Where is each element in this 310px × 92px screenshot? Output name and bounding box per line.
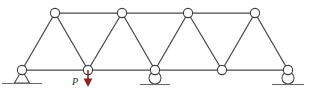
joint-B4 (217, 65, 226, 74)
joint-B5 (283, 65, 292, 74)
joint-B1 (17, 65, 26, 74)
joint-B3 (150, 65, 159, 74)
truss-diagram: P (0, 0, 310, 92)
diagonal-member-B4-T4 (222, 13, 255, 70)
diagonal-member-T3-B4 (188, 13, 222, 70)
joint-T1 (50, 8, 59, 17)
diagonal-member-T4-B5 (255, 13, 288, 70)
diagonal-member-T1-B2 (55, 13, 88, 70)
diagonal-members (22, 13, 288, 70)
diagonal-member-T2-B3 (122, 13, 155, 70)
joint-T2 (117, 8, 126, 17)
diagonal-member-B1-T1 (22, 13, 55, 70)
joint-T4 (250, 8, 259, 17)
diagonal-member-B3-T3 (155, 13, 188, 70)
truss-members (22, 13, 288, 70)
load-label-P: P (71, 76, 78, 87)
joint-T3 (183, 8, 192, 17)
diagonal-member-B2-T2 (88, 13, 122, 70)
truss-svg-canvas: P (0, 0, 310, 92)
load-arrow-head-icon (84, 79, 93, 88)
